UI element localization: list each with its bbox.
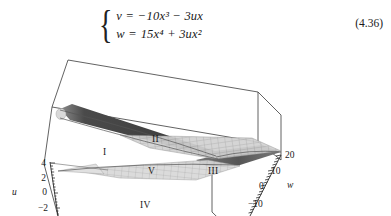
box-edge-top-left [52,60,68,107]
equation-line-v-rhs: −10x³ − 3ux [138,9,203,23]
axis-u-tick-neg2: −2 [38,203,48,213]
axis-u-tick-4: 4 [41,158,46,168]
equation-line-v: v = −10x³ − 3ux [116,10,203,23]
plot-svg: 4 2 0 −2 u [0,52,391,216]
axis-w-tick-0: 0 [259,181,264,191]
equation-brace: { [99,6,112,44]
equation-line-v-equals: = [125,9,134,23]
page-canvas: { v = −10x³ − 3ux w = 15x⁴ + 3ux² (4.36) [0,0,391,216]
region-label-IV: IV [140,200,151,210]
surface-dark-fold [56,104,281,166]
axis-w-tick-10: 10 [271,166,281,176]
equation-line-w: w = 15x⁴ + 3ux² [116,28,203,41]
equation-number: (4.36) [355,17,383,29]
axis-u-name: u [12,187,17,197]
box-edge-bottom-diag [212,212,248,216]
region-label-I: I [103,147,106,157]
equation-lines: v = −10x³ − 3ux w = 15x⁴ + 3ux² [116,10,203,41]
box-edge-top-back [68,60,258,92]
axis-u-tick-0: 0 [42,187,47,197]
axis-w-tick-neg10: −10 [248,199,263,209]
figure-3d-plot: 4 2 0 −2 u [0,52,391,216]
region-label-V: V [148,166,155,176]
equation-line-w-rhs: 15x⁴ + 3ux² [141,27,202,41]
axis-w-name: w [287,180,294,190]
equation-line-w-lhs: w [116,27,125,41]
region-label-III: III [208,166,218,176]
axis-w-tick-20: 20 [285,150,295,160]
equation-line-v-lhs: v [116,9,122,23]
region-label-II: II [152,134,159,144]
box-edge-left-vertical [44,107,52,164]
box-edge-right-back-diag [258,92,281,115]
equation-block: { v = −10x³ − 3ux w = 15x⁴ + 3ux² [96,2,296,48]
equation-line-w-equals: = [128,27,137,41]
axis-u-tick-2: 2 [41,173,46,183]
